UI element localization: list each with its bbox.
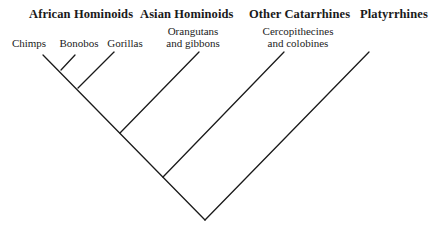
branch-line	[78, 52, 114, 88]
branch-line	[205, 52, 369, 220]
tree-branches	[0, 0, 437, 232]
branch-line	[43, 55, 205, 220]
branch-line	[61, 55, 75, 70]
branch-line	[120, 52, 199, 133]
